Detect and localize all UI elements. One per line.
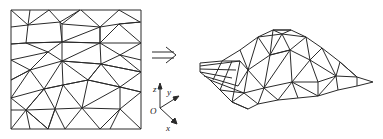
mesh-to-surface-diagram: z y O x [0, 0, 383, 139]
origin-label: O [150, 106, 157, 116]
z-axis-label: z [152, 84, 157, 94]
y-axis-label: y [166, 87, 171, 97]
implies-arrow-icon [152, 47, 176, 63]
y-arrowhead-icon [173, 96, 179, 101]
planar-mesh [11, 10, 141, 129]
z-arrowhead-icon [158, 83, 162, 89]
surface-mesh [200, 30, 373, 109]
y-axis [160, 98, 176, 108]
x-axis-label: x [165, 123, 170, 133]
x-axis [160, 108, 174, 121]
